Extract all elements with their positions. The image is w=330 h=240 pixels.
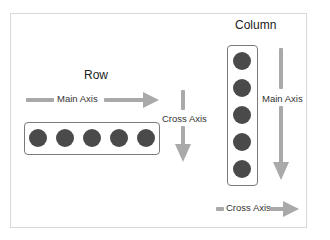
column-item-5 — [233, 160, 251, 178]
column-main-axis-label: Main Axis — [262, 93, 303, 104]
column-cross-axis-label: Cross Axis — [226, 202, 271, 213]
row-item-4 — [110, 129, 128, 147]
column-item-3 — [233, 106, 251, 124]
diagram-frame — [10, 13, 307, 228]
row-container — [24, 122, 160, 155]
column-item-4 — [233, 133, 251, 151]
row-title: Row — [84, 68, 108, 82]
row-item-5 — [137, 129, 155, 147]
row-item-2 — [56, 129, 74, 147]
column-item-2 — [233, 79, 251, 97]
row-main-axis-label: Main Axis — [57, 93, 98, 104]
row-item-3 — [83, 129, 101, 147]
row-cross-axis-label: Cross Axis — [162, 113, 207, 124]
column-item-1 — [233, 52, 251, 70]
row-item-1 — [29, 129, 47, 147]
column-container — [227, 45, 258, 186]
column-title: Column — [235, 18, 276, 32]
